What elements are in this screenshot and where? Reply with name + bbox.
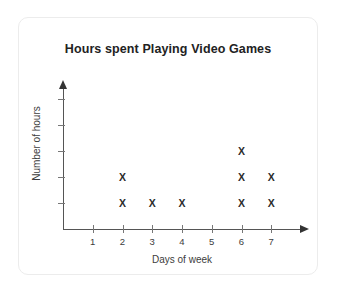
- x-axis-tick: [93, 225, 94, 233]
- x-axis-tick-label: 7: [261, 236, 281, 247]
- x-axis-tick: [212, 225, 213, 233]
- data-point-marker: X: [144, 196, 160, 210]
- y-axis-tick: [58, 99, 65, 100]
- y-axis-arrow-icon: [59, 80, 67, 89]
- plot-area: 1234567 XXXXXXXXX Number of hours Days o…: [19, 18, 319, 276]
- x-axis-tick-label: 3: [142, 236, 162, 247]
- x-axis-tick: [123, 225, 124, 233]
- y-axis-tick: [58, 125, 65, 126]
- y-axis-title: Number of hours: [31, 94, 42, 194]
- data-point-marker: X: [234, 196, 250, 210]
- x-axis-title: Days of week: [63, 254, 301, 265]
- data-point-marker: X: [115, 170, 131, 184]
- x-axis-tick-label: 5: [202, 236, 222, 247]
- x-axis-tick: [242, 225, 243, 233]
- x-axis-tick: [271, 225, 272, 233]
- x-axis-tick-label: 6: [232, 236, 252, 247]
- x-axis-tick-label: 2: [113, 236, 133, 247]
- x-axis-arrow-icon: [300, 225, 309, 233]
- x-axis-tick-label: 1: [83, 236, 103, 247]
- y-axis-line: [63, 88, 64, 230]
- y-axis-tick: [58, 177, 65, 178]
- y-axis-tick: [58, 203, 65, 204]
- data-point-marker: X: [115, 196, 131, 210]
- y-axis-tick: [58, 151, 65, 152]
- data-point-marker: X: [263, 170, 279, 184]
- data-point-marker: X: [263, 196, 279, 210]
- x-axis-tick: [182, 225, 183, 233]
- chart-card: Hours spent Playing Video Games 1234567 …: [18, 17, 318, 275]
- data-point-marker: X: [234, 170, 250, 184]
- x-axis-tick: [152, 225, 153, 233]
- data-point-marker: X: [174, 196, 190, 210]
- x-axis-tick-label: 4: [172, 236, 192, 247]
- data-point-marker: X: [234, 144, 250, 158]
